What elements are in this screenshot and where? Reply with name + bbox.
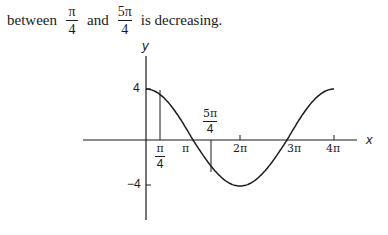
annotation-numerator: 5π [203, 107, 217, 120]
x-tick-label-pi-over-4: π 4 [155, 142, 165, 171]
tick-numerator: π [156, 142, 163, 155]
x-axis-label: x [366, 132, 373, 147]
x-tick-label-pi: π [182, 142, 189, 155]
annotation-5pi-over-4: 5π 4 [203, 107, 217, 136]
y-tick-label-4: 4 [133, 81, 140, 95]
annotation-denominator: 4 [207, 123, 214, 136]
tick-denominator: 4 [157, 158, 164, 171]
y-tick-label-neg4: −4 [127, 177, 141, 191]
x-tick-label-2pi: 2π [233, 142, 247, 155]
y-axis-label: y [142, 38, 149, 53]
cosine-graph [0, 0, 388, 235]
x-tick-label-4pi: 4π [326, 142, 340, 155]
x-tick-label-3pi: 3π [287, 142, 301, 155]
